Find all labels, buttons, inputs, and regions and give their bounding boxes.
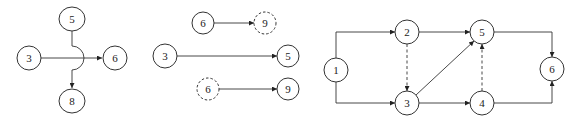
node-6: 6	[540, 57, 564, 81]
edge-1-3	[336, 82, 395, 103]
node-2: 2	[395, 20, 419, 44]
svg-text:3: 3	[162, 50, 168, 62]
panel-crossing: 5 3 6 8	[17, 7, 127, 113]
node-3: 3	[153, 44, 177, 68]
svg-text:1: 1	[333, 64, 339, 76]
svg-text:6: 6	[549, 63, 555, 75]
node-4: 4	[470, 91, 494, 115]
svg-text:8: 8	[69, 95, 75, 107]
node-9: 9	[277, 78, 299, 100]
svg-text:2: 2	[404, 26, 410, 38]
edge-4-6	[494, 81, 552, 103]
panel-network: 1 2 3 5 4 6	[324, 20, 564, 115]
node-6: 6	[192, 12, 214, 34]
node-1: 1	[324, 58, 348, 82]
node-8: 8	[59, 89, 85, 113]
svg-text:5: 5	[285, 50, 291, 62]
node-6: 6	[103, 46, 127, 70]
edge-5-6	[494, 32, 552, 57]
svg-text:6: 6	[205, 83, 211, 95]
edge-3-5	[416, 41, 474, 95]
svg-text:3: 3	[404, 97, 410, 109]
edge-5-8-bridge	[72, 31, 84, 88]
node-5: 5	[277, 45, 299, 67]
node-6-dummy: 6	[197, 78, 219, 100]
svg-text:3: 3	[26, 52, 32, 64]
node-5: 5	[59, 7, 85, 31]
svg-text:4: 4	[479, 97, 485, 109]
node-3: 3	[395, 91, 419, 115]
svg-text:9: 9	[285, 83, 291, 95]
svg-text:5: 5	[479, 26, 485, 38]
svg-text:6: 6	[112, 52, 118, 64]
svg-text:9: 9	[262, 17, 268, 29]
svg-text:5: 5	[69, 13, 75, 25]
panel-virtual-nodes: 6 9 3 5 6 9	[153, 12, 299, 100]
svg-text:6: 6	[200, 17, 206, 29]
network-diagrams: 5 3 6 8 6 9 3	[0, 0, 572, 121]
node-5: 5	[470, 20, 494, 44]
node-3: 3	[17, 46, 41, 70]
node-9-dummy: 9	[254, 12, 276, 34]
edge-1-2	[336, 32, 395, 58]
